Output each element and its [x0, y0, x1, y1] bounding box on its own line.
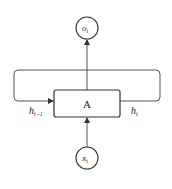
hidden-in-label: ht−1	[29, 105, 43, 117]
cell-label: A	[83, 98, 91, 110]
hidden-out-label: ht	[131, 105, 138, 117]
rnn-diagram: A ot xt ht−1 ht	[0, 0, 172, 189]
